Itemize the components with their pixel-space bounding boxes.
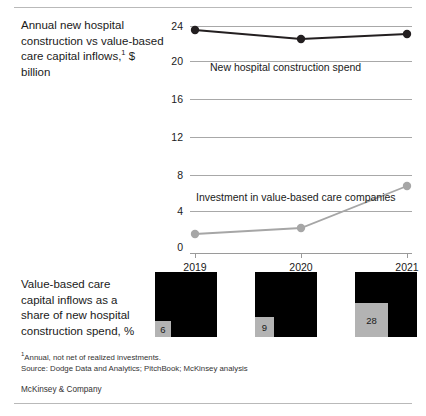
- share-square-group-2020: 9: [255, 272, 317, 337]
- series-label-investment: Investment in value-based care companies: [196, 191, 396, 203]
- series-point-investment-2021: [403, 182, 411, 190]
- series-point-investment-2019: [191, 230, 199, 238]
- y-axis-tick-8: 8: [161, 169, 183, 181]
- series-point-construction-2020: [297, 35, 305, 43]
- y-axis-tick-20: 20: [161, 55, 183, 67]
- line-chart: 24 20 16 12 8 4 0 New hospital construct…: [163, 15, 415, 263]
- top-divider: [14, 7, 412, 8]
- y-axis-tick-24: 24: [161, 20, 183, 32]
- share-squares-panel: 6 9 28: [150, 270, 422, 342]
- share-square-inner-2020: 9: [255, 317, 274, 337]
- lower-panel-title: Value-based care capital inflows as a sh…: [21, 277, 143, 339]
- y-axis-tick-16: 16: [161, 93, 183, 105]
- share-square-inner-2021: 28: [355, 303, 388, 337]
- footnote-annual: 1Annual, not net of realized investments…: [21, 352, 361, 363]
- series-point-investment-2020: [297, 224, 305, 232]
- upper-panel-title: Annual new hospital construction vs valu…: [21, 18, 166, 80]
- exhibit-container: Annual new hospital construction vs valu…: [0, 0, 426, 416]
- footnote-source: Source: Dodge Data and Analytics; PitchB…: [21, 363, 361, 374]
- series-graphics: [190, 15, 412, 241]
- series-point-construction-2021: [403, 30, 411, 38]
- share-square-group-2021: 28: [355, 272, 417, 337]
- x-axis-tick-mark-2019: [195, 253, 196, 258]
- series-point-construction-2019: [191, 26, 199, 34]
- y-axis-tick-0: 0: [161, 241, 183, 253]
- share-square-inner-2019: 6: [155, 321, 171, 337]
- x-axis-tick-mark-2021: [407, 253, 408, 258]
- share-square-group-2019: 6: [155, 272, 217, 337]
- y-axis-tick-12: 12: [161, 131, 183, 143]
- footnotes: 1Annual, not net of realized investments…: [21, 352, 361, 374]
- x-axis-tick-mark-2020: [301, 253, 302, 258]
- brand-mckinsey: McKinsey & Company: [21, 385, 102, 394]
- y-axis-tick-4: 4: [161, 205, 183, 217]
- series-label-construction: New hospital construction spend: [210, 61, 361, 73]
- footnote-annual-text: Annual, not net of realized investments.: [24, 353, 161, 362]
- bottom-divider: [14, 403, 412, 404]
- upper-panel-title-text: Annual new hospital construction vs valu…: [21, 19, 164, 62]
